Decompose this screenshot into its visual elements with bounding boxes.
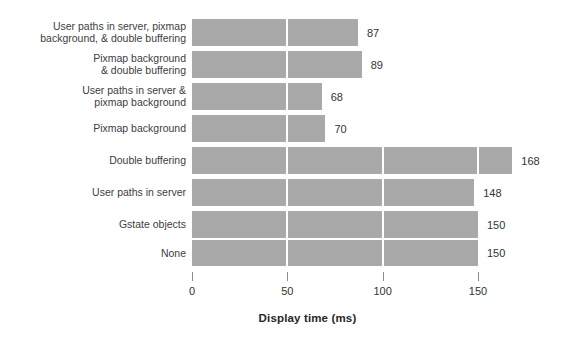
axis-tick-label: 150 (458, 286, 498, 297)
axis-tick-label: 0 (172, 286, 212, 297)
bar (192, 83, 322, 110)
x-axis-title: Display time (ms) (0, 312, 561, 324)
bar-row: User paths in server, pixmap background,… (0, 19, 561, 46)
bar (192, 147, 512, 174)
bar-separator (382, 240, 384, 266)
axis-tick-label: 100 (363, 286, 403, 297)
bar-separator (286, 51, 288, 78)
bar-separator (286, 211, 288, 238)
bar-separator (286, 179, 288, 206)
bar-chart: Display time (ms) 050100150 User paths i… (0, 0, 561, 356)
bar (192, 240, 478, 266)
bar-row: None150 (0, 240, 561, 266)
category-label: User paths in server & pixmap background (6, 84, 186, 109)
bar-track (192, 115, 325, 142)
bar (192, 211, 478, 238)
bar-separator (286, 147, 288, 174)
bar-separator (477, 147, 479, 174)
axis-tick-label: 50 (267, 286, 307, 297)
value-label: 68 (331, 92, 343, 103)
value-label: 87 (367, 28, 379, 39)
bar-row: Pixmap background70 (0, 115, 561, 142)
bar (192, 179, 474, 206)
bar (192, 51, 362, 78)
bar-row: Double buffering168 (0, 147, 561, 174)
category-label: None (6, 247, 186, 259)
bar-separator (382, 147, 384, 174)
value-label: 150 (487, 220, 505, 231)
x-axis-title-text: Display time (ms) (259, 312, 357, 324)
bar-track (192, 51, 362, 78)
value-label: 89 (371, 60, 383, 71)
bar-track (192, 240, 478, 266)
value-label: 168 (521, 156, 539, 167)
category-label: Pixmap background (6, 122, 186, 134)
bar-row: User paths in server148 (0, 179, 561, 206)
bar-separator (382, 179, 384, 206)
bar-row: Gstate objects150 (0, 211, 561, 238)
bar-track (192, 19, 358, 46)
category-label: Pixmap background & double buffering (6, 52, 186, 77)
axis-tick (478, 272, 479, 281)
axis-tick (192, 272, 193, 281)
bar-separator (382, 211, 384, 238)
bar (192, 19, 358, 46)
bar-separator (286, 83, 288, 110)
x-axis: Display time (ms) 050100150 (0, 272, 561, 356)
category-label: Double buffering (6, 154, 186, 166)
bar-row: Pixmap background & double buffering89 (0, 51, 561, 78)
axis-tick (383, 272, 384, 281)
category-label: Gstate objects (6, 218, 186, 230)
bar-separator (286, 19, 288, 46)
bar-row: User paths in server & pixmap background… (0, 83, 561, 110)
bar-track (192, 179, 474, 206)
category-label: User paths in server, pixmap background,… (6, 20, 186, 45)
bar-separator (286, 240, 288, 266)
value-label: 148 (483, 188, 501, 199)
value-label: 70 (334, 124, 346, 135)
bar-track (192, 147, 512, 174)
bar-track (192, 211, 478, 238)
bar-separator (286, 115, 288, 142)
value-label: 150 (487, 248, 505, 259)
bar (192, 115, 325, 142)
category-label: User paths in server (6, 186, 186, 198)
axis-tick (287, 272, 288, 281)
bar-track (192, 83, 322, 110)
